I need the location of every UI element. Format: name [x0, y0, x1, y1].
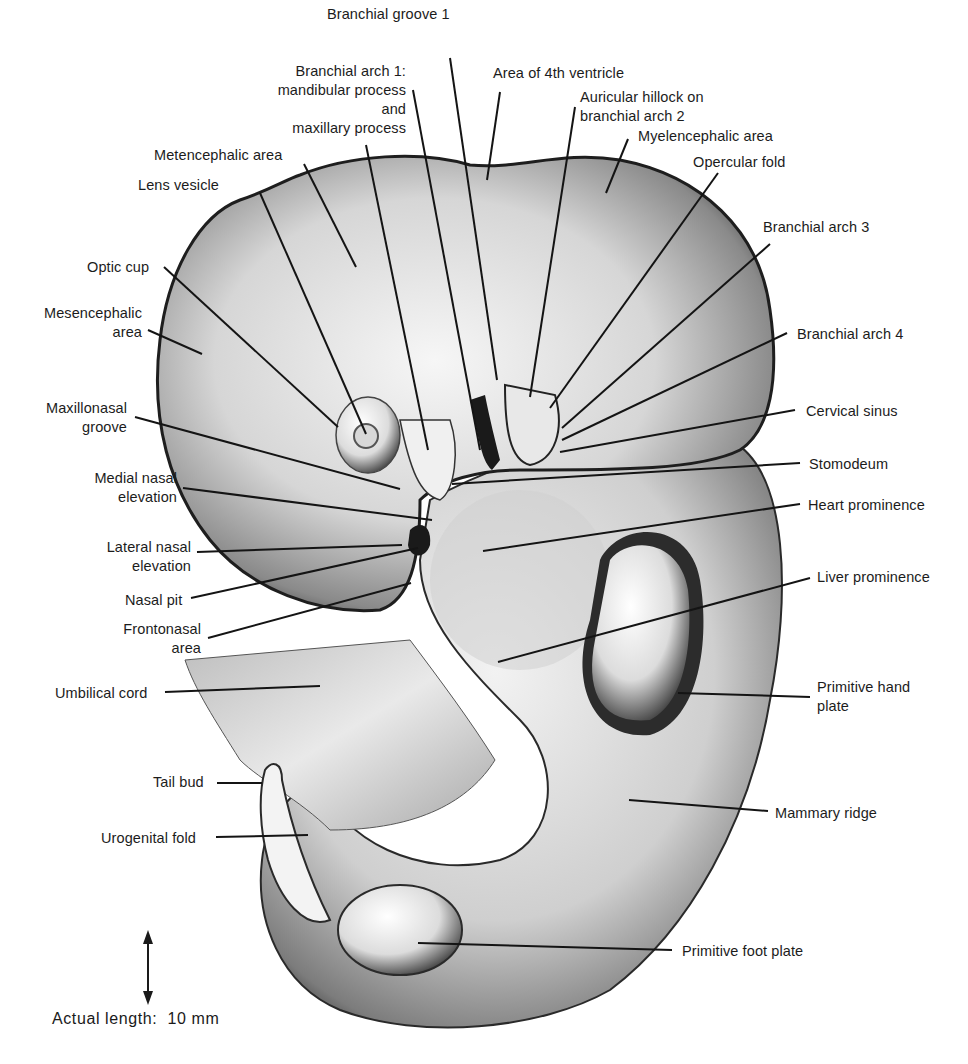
- label-area-4th-ventricle: Area of 4th ventricle: [493, 64, 624, 83]
- label-umbilical-cord: Umbilical cord: [55, 684, 147, 703]
- scale-value: 10 mm: [167, 1010, 219, 1027]
- label-optic-cup: Optic cup: [87, 258, 149, 277]
- label-primitive-foot-plate: Primitive foot plate: [682, 942, 803, 961]
- label-mammary-ridge: Mammary ridge: [775, 804, 877, 823]
- heart-prominence-shape: [430, 490, 610, 670]
- umbilical-cord-shape: [185, 640, 495, 830]
- label-branchial-groove-1: Branchial groove 1: [327, 5, 450, 24]
- label-lateral-nasal-elevation: Lateral nasal elevation: [98, 538, 191, 576]
- label-lens-vesicle: Lens vesicle: [138, 176, 219, 195]
- label-opercular-fold: Opercular fold: [693, 153, 785, 172]
- scale-bar-arrow: [143, 930, 153, 1005]
- label-branchial-arch-4: Branchial arch 4: [797, 325, 903, 344]
- label-urogenital-fold: Urogenital fold: [101, 829, 196, 848]
- primitive-foot-plate-shape: [338, 885, 462, 975]
- label-liver-prominence: Liver prominence: [817, 568, 930, 587]
- label-frontonasal-area: Frontonasal area: [115, 620, 201, 658]
- label-auricular-hillock: Auricular hillock on branchial arch 2: [580, 88, 704, 126]
- label-nasal-pit: Nasal pit: [125, 591, 182, 610]
- nasal-pit-shape: [408, 525, 430, 556]
- label-branchial-arch-3: Branchial arch 3: [763, 218, 869, 237]
- label-heart-prominence: Heart prominence: [808, 496, 925, 515]
- label-branchial-arch-1: Branchial arch 1: mandibular process and…: [230, 62, 406, 138]
- scale-caption: Actual length: 10 mm: [52, 1010, 219, 1028]
- label-tail-bud: Tail bud: [153, 773, 204, 792]
- embryo-illustration: [0, 0, 968, 1064]
- label-medial-nasal-elevation: Medial nasal elevation: [84, 469, 177, 507]
- label-myelencephalic-area: Myelencephalic area: [638, 127, 773, 146]
- label-metencephalic-area: Metencephalic area: [154, 146, 282, 165]
- label-stomodeum: Stomodeum: [809, 455, 888, 474]
- embryo-diagram: Branchial groove 1Branchial arch 1: mand…: [0, 0, 968, 1064]
- label-maxillonasal-groove: Maxillonasal groove: [37, 399, 127, 437]
- lens-vesicle-shape: [354, 424, 378, 448]
- label-cervical-sinus: Cervical sinus: [806, 402, 898, 421]
- label-mesencephalic-area: Mesencephalic area: [32, 304, 142, 342]
- scale-label: Actual length:: [52, 1010, 157, 1027]
- label-primitive-hand-plate: Primitive hand plate: [817, 678, 910, 716]
